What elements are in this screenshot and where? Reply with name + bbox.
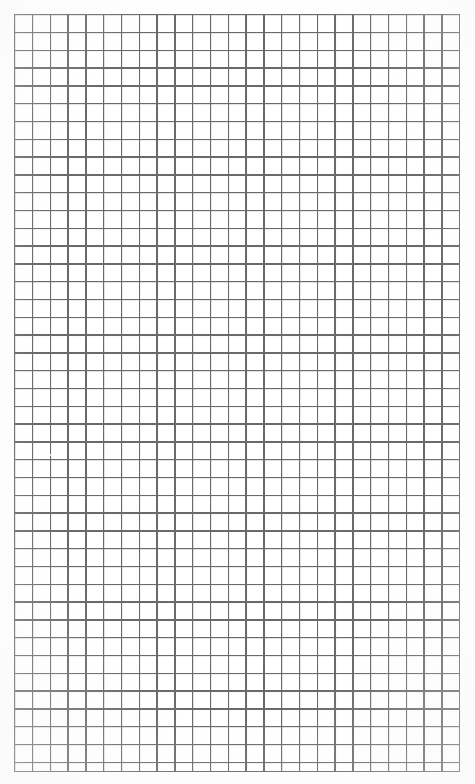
scan-bleach-mark [46, 454, 62, 456]
paper-sheet [0, 0, 475, 784]
grid-bottom-edge-rule [14, 771, 460, 772]
grid-paper-page [0, 0, 475, 784]
grid-ruling [14, 14, 459, 771]
grid-right-edge-rule [459, 14, 460, 771]
